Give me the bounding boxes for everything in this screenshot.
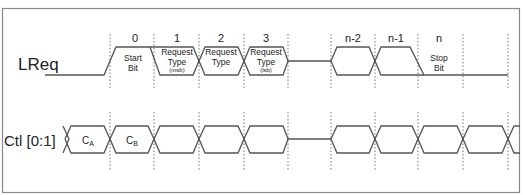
- field-label: Type: [168, 57, 187, 67]
- bit-number: 1: [174, 32, 180, 44]
- timing-diagram: LReq Ctl [0:1] 0 1 2 3 n-2 n-1 n Start B…: [0, 0, 523, 195]
- field-label: Request: [250, 47, 282, 57]
- bit-number-row: 0 1 2 3 n-2 n-1 n: [132, 32, 442, 44]
- field-label: Stop: [430, 53, 448, 63]
- field-label: Bit: [434, 63, 445, 73]
- bit-number: 3: [263, 32, 269, 44]
- lreq-label: LReq: [18, 55, 59, 74]
- field-label: Bit: [128, 63, 139, 73]
- ctl-field-label: CB: [126, 135, 138, 147]
- field-label: Type: [212, 57, 231, 67]
- lreq-field-labels: Start Bit Request Type (msb) Request Typ…: [124, 47, 448, 73]
- field-label: Start: [124, 53, 143, 63]
- bit-number: n-2: [345, 32, 361, 44]
- bit-number: n: [436, 32, 442, 44]
- field-label: Type: [257, 57, 276, 67]
- ctl-label: Ctl [0:1]: [4, 132, 56, 149]
- field-label: Request: [161, 47, 193, 57]
- field-label: (msb): [169, 67, 184, 73]
- bit-number: 2: [218, 32, 224, 44]
- field-label: Request: [205, 47, 237, 57]
- bit-number: n-1: [388, 32, 404, 44]
- field-label: (lsb): [260, 67, 272, 73]
- bit-number: 0: [132, 32, 138, 44]
- ctl-field-label: CA: [82, 135, 94, 147]
